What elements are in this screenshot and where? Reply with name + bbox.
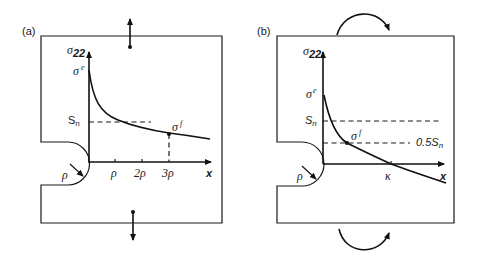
tick-rho-a: ρ xyxy=(110,166,117,180)
sn-label-a: Sn xyxy=(68,114,80,128)
sigma-e-label-b: σe xyxy=(306,86,317,101)
x-axis-label-b: x xyxy=(439,170,447,182)
x-axis-label-a: x xyxy=(205,167,213,179)
notch-stress-diagram: (a) σ22 σe Sn σf ρ ρ xyxy=(0,0,478,264)
panel-b-label: (b) xyxy=(257,25,270,37)
sigma-f-label-a: σf xyxy=(172,119,184,134)
rho-notch-label-b: ρ xyxy=(296,169,303,183)
half-sn-label-b: 0.5Sn xyxy=(416,136,444,150)
moment-arrow-top-icon xyxy=(337,14,389,35)
kappa-label-b: κ xyxy=(385,169,391,183)
rho-notch-label-a: ρ xyxy=(61,168,68,182)
tick-2rho-a: 2ρ xyxy=(134,166,146,180)
panel-b: (b) σ22 σe Sn σf 0.5Sn ρ κ x xyxy=(257,14,454,250)
sigma-f-point-a xyxy=(167,132,171,136)
specimen-outline-b xyxy=(277,36,454,223)
tension-arrow-bottom-icon xyxy=(131,210,135,240)
panel-a: (a) σ22 σe Sn σf ρ ρ xyxy=(22,19,222,240)
sn-label-b: Sn xyxy=(305,114,317,128)
y-axis-label-b: σ22 xyxy=(303,44,321,60)
radius-arrow-a xyxy=(70,164,83,176)
y-axis-label-a: σ22 xyxy=(67,43,85,59)
tick-3rho-a: 3ρ xyxy=(161,166,174,180)
radius-arrow-b xyxy=(302,166,316,179)
sigma-e-label-a: σe xyxy=(73,63,85,78)
specimen-outline-a xyxy=(41,36,222,223)
tension-arrow-top-icon xyxy=(128,19,132,49)
sigma-f-label-b: σf xyxy=(351,128,363,143)
stress-curve-a xyxy=(89,70,210,139)
sigma-f-point-b xyxy=(345,141,349,145)
panel-a-label: (a) xyxy=(22,25,35,37)
moment-arrow-bottom-icon xyxy=(339,229,389,250)
